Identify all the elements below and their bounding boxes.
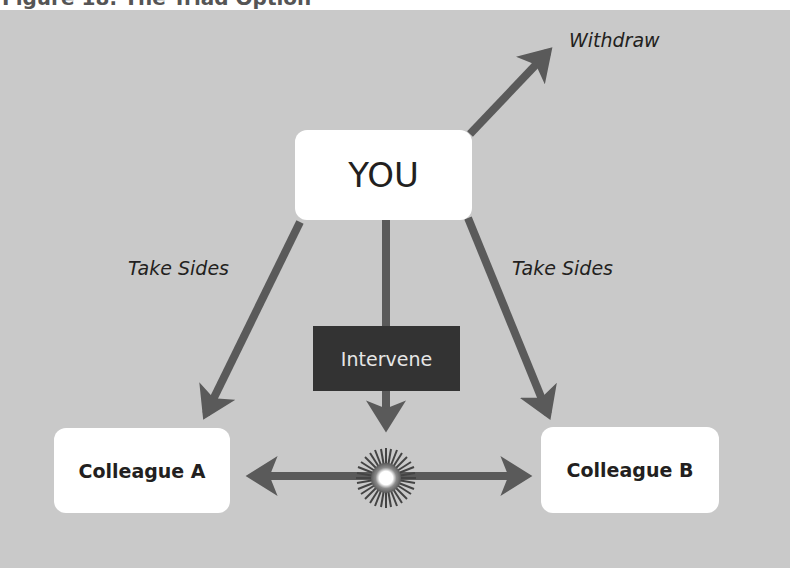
withdraw-arrow — [470, 52, 548, 134]
node-colleague-a: Colleague A — [54, 428, 230, 513]
take-sides-right-arrow — [468, 218, 548, 414]
node-you: YOU — [295, 130, 472, 220]
edge-label-withdraw: Withdraw — [569, 29, 660, 51]
edge-label-take-sides-left: Take Sides — [128, 257, 229, 279]
conflict-burst-icon — [356, 448, 416, 508]
node-intervene: Intervene — [313, 326, 460, 391]
node-colleague-b-label: Colleague B — [567, 459, 694, 481]
edge-label-take-sides-right: Take Sides — [512, 257, 613, 279]
node-colleague-a-label: Colleague A — [78, 460, 205, 482]
node-colleague-b: Colleague B — [541, 427, 719, 513]
node-intervene-label: Intervene — [341, 348, 432, 370]
take-sides-left-arrow — [206, 222, 300, 414]
node-you-label: YOU — [348, 155, 419, 195]
